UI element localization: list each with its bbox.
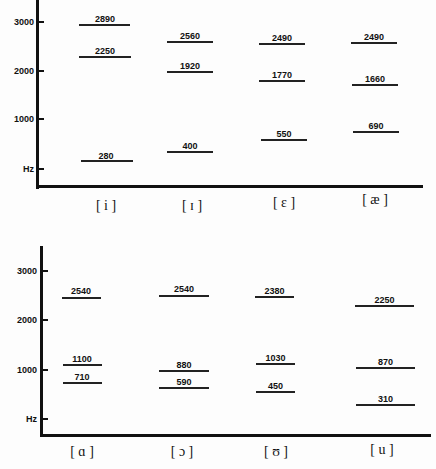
formant-line-f2 xyxy=(256,363,295,365)
y-tick xyxy=(42,270,48,272)
y-tick xyxy=(42,369,48,371)
formant-line-f1 xyxy=(63,382,102,384)
vowel-label: [ ɔ ] xyxy=(142,444,222,460)
formant-line-f1 xyxy=(256,391,295,393)
formant-line-f2 xyxy=(356,367,415,369)
vowel-label: [ ɑ ] xyxy=(42,444,122,460)
formant-value: 880 xyxy=(159,360,209,370)
formant-line-f3 xyxy=(62,297,101,299)
y-tick xyxy=(42,319,48,321)
y-tick xyxy=(42,418,48,420)
y-axis xyxy=(40,246,43,437)
formant-line-f1 xyxy=(356,404,415,406)
vowel-label: [ u ] xyxy=(342,442,422,458)
y-tick-label: 3000 xyxy=(3,266,37,276)
formant-value: 2250 xyxy=(355,295,414,305)
formant-value: 1030 xyxy=(256,353,295,363)
y-axis-unit-label: Hz xyxy=(3,414,37,424)
formant-value: 590 xyxy=(159,377,209,387)
y-tick-label: 1000 xyxy=(3,365,37,375)
formant-line-f3 xyxy=(159,295,209,297)
formant-value: 2380 xyxy=(255,286,294,296)
formant-value: 310 xyxy=(356,394,415,404)
formant-value: 710 xyxy=(62,372,102,382)
y-tick-label: 2000 xyxy=(3,315,37,325)
formant-value: 2540 xyxy=(61,286,101,296)
formant-line-f2 xyxy=(63,364,102,366)
formant-value: 1100 xyxy=(62,354,102,364)
formant-line-f1 xyxy=(159,387,209,389)
vowel-label: [ ʊ ] xyxy=(236,444,316,460)
formant-line-f2 xyxy=(159,370,209,372)
formant-value: 870 xyxy=(356,357,415,367)
formant-value: 2540 xyxy=(159,284,209,294)
bottom-formant-chart: 3000 2000 1000 Hz 2540 1100 710 2540 880… xyxy=(0,0,436,469)
formant-line-f3 xyxy=(255,296,294,298)
formant-value: 450 xyxy=(256,381,295,391)
formant-line-f3 xyxy=(355,305,414,307)
x-axis xyxy=(40,434,431,437)
